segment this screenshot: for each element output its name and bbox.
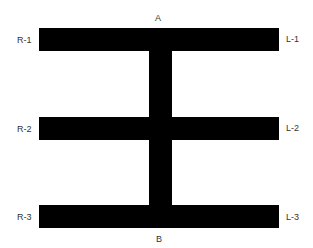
label-l-3: L-3 [286, 212, 299, 222]
label-b: B [156, 234, 162, 244]
label-l-1: L-1 [286, 34, 299, 44]
label-l-2: L-2 [286, 123, 299, 133]
label-r-2: R-2 [17, 124, 32, 134]
label-r-3: R-3 [17, 212, 32, 222]
vertical-stem [149, 28, 172, 228]
label-r-1: R-1 [17, 35, 32, 45]
label-a: A [155, 13, 161, 23]
